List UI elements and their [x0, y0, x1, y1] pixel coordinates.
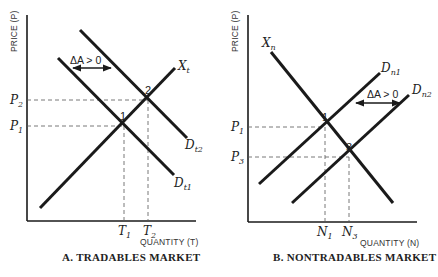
- panel-caption: A. TRADABLES MARKET: [62, 251, 201, 263]
- supply-curve-xt: [40, 68, 175, 208]
- quantity-n1: N1: [316, 225, 333, 241]
- y-axis-label: PRICE (P): [230, 11, 240, 52]
- panel-caption: B. NONTRADABLES MARKET: [273, 251, 437, 263]
- x-axis-label: QUANTITY (N): [360, 238, 419, 248]
- equilibrium-3-label: 3: [346, 141, 352, 153]
- label-xt: Xt: [177, 59, 191, 75]
- equilibrium-2-label: 2: [145, 84, 151, 96]
- demand-curve-dn1: [259, 73, 380, 184]
- price-p1: P1: [230, 120, 244, 136]
- price-p3: P3: [230, 150, 244, 166]
- label-dt2: Dt2: [184, 138, 203, 154]
- shift-label: ΔA > 0: [367, 88, 398, 100]
- demand-curve-dt2: [80, 30, 187, 138]
- label-dn1: Dn1: [380, 61, 401, 77]
- diagram-canvas: PRICE (P) QUANTITY (T) ΔA > 0 Xt Dt2 Dt1…: [0, 0, 438, 277]
- label-dt1: Dt1: [173, 176, 192, 192]
- panel-tradables-market: PRICE (P) QUANTITY (T) ΔA > 0 Xt Dt2 Dt1…: [9, 11, 203, 263]
- panel-nontradables-market: PRICE (P) QUANTITY (N) ΔA > 0 Xn Dn1 Dn2…: [230, 11, 437, 263]
- label-xn: Xn: [261, 36, 276, 52]
- x-axis-label: QUANTITY (T): [140, 237, 198, 247]
- quantity-t1: T1: [118, 224, 131, 240]
- price-p1: P1: [9, 119, 23, 135]
- y-axis-label: PRICE (P): [9, 11, 19, 52]
- demand-curve-dt1: [58, 58, 174, 175]
- quantity-t2: T2: [143, 224, 156, 240]
- label-dn2: Dn2: [411, 83, 432, 99]
- equilibrium-1-label: 1: [120, 110, 126, 122]
- price-p2: P2: [9, 93, 23, 109]
- equilibrium-1-label: 1: [322, 111, 328, 123]
- shift-label: ΔA > 0: [70, 54, 101, 66]
- quantity-n3: N3: [341, 225, 358, 241]
